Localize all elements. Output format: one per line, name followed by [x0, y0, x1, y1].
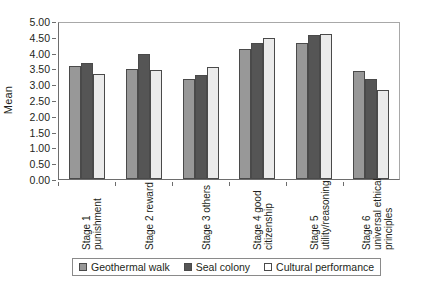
y-axis-tick-label: 0.50: [30, 158, 50, 170]
x-axis-label-line: Stage 2 reward: [143, 182, 154, 250]
x-axis-label-cell: Stage 2 reward: [115, 182, 172, 252]
bar: [126, 69, 138, 179]
x-axis-label-cell: Stage 5utility/reasoning: [286, 182, 343, 252]
bar: [69, 66, 81, 179]
bar: [195, 75, 207, 179]
bar: [296, 43, 308, 180]
x-axis-label-line: punishment: [92, 198, 103, 250]
y-axis-tick-label: 5.00: [30, 16, 50, 28]
y-axis-tick-label: 4.50: [30, 32, 50, 44]
y-axis-tick-mark: [52, 85, 56, 86]
bar: [320, 34, 332, 179]
bar: [263, 38, 275, 179]
bar-group: [342, 23, 399, 179]
y-axis-tick-label: 2.50: [30, 95, 50, 107]
x-axis-label-line: Stage 1: [81, 198, 92, 250]
x-axis-tick-mark: [229, 182, 230, 186]
x-axis-label-cell: Stage 1punishment: [58, 182, 115, 252]
x-axis-label-line: principles: [382, 178, 393, 250]
legend-item[interactable]: Cultural performance: [264, 261, 374, 273]
x-axis-label-cell: Stage 3 others: [172, 182, 229, 252]
y-axis-tick-mark: [52, 148, 56, 149]
bar: [81, 63, 93, 179]
x-axis-label-line: Stage 5: [309, 181, 320, 250]
x-axis-label: Stage 2 reward: [143, 182, 154, 250]
y-axis-ticks: 5.004.504.003.503.002.502.001.501.000.50…: [0, 22, 56, 180]
y-axis-tick-label: 3.50: [30, 63, 50, 75]
y-axis-tick-mark: [52, 117, 56, 118]
x-axis-tick-mark: [58, 182, 59, 186]
x-axis-tick-mark: [172, 182, 173, 186]
bar-group: [172, 23, 229, 179]
x-axis-label: Stage 5utility/reasoning: [309, 181, 331, 250]
bar: [239, 49, 251, 179]
legend-item[interactable]: Geothermal walk: [79, 261, 170, 273]
x-axis-label-line: Stage 6: [360, 178, 371, 250]
y-axis-tick-label: 4.00: [30, 48, 50, 60]
bar-chart: Mean 5.004.504.003.503.002.502.001.501.0…: [0, 0, 422, 285]
bar-group: [59, 23, 116, 179]
y-axis-tick-label: 1.00: [30, 142, 50, 154]
legend-label: Seal colony: [196, 261, 250, 273]
x-axis-label-cell: Stage 6universal ethicalprinciples: [343, 182, 400, 252]
y-axis-tick-mark: [52, 133, 56, 134]
bar: [183, 79, 195, 179]
x-axis-tick-mark: [286, 182, 287, 186]
legend-swatch: [264, 263, 272, 271]
legend-label: Geothermal walk: [91, 261, 170, 273]
bar: [308, 35, 320, 179]
legend-label: Cultural performance: [276, 261, 374, 273]
x-axis-label-line: universal ethical: [371, 178, 382, 250]
x-axis-label: Stage 4 goodcitizenship: [252, 191, 274, 251]
x-axis-label-line: utility/reasoning: [320, 181, 331, 250]
y-axis-tick-mark: [52, 164, 56, 165]
y-axis-tick-mark: [52, 38, 56, 39]
x-axis-tick-mark: [343, 182, 344, 186]
y-axis-tick-mark: [52, 101, 56, 102]
bar: [93, 74, 105, 179]
bar: [207, 67, 219, 179]
bar-group: [229, 23, 286, 179]
bar: [138, 54, 150, 179]
x-axis-label-line: Stage 3 others: [200, 185, 211, 250]
y-axis-tick-label: 1.50: [30, 127, 50, 139]
x-axis-label: Stage 1punishment: [81, 198, 103, 250]
y-axis-tick-mark: [52, 22, 56, 23]
x-axis-label-line: citizenship: [263, 191, 274, 251]
y-axis-tick-mark: [52, 69, 56, 70]
chart-legend: Geothermal walkSeal colonyCultural perfo…: [72, 258, 381, 276]
legend-item[interactable]: Seal colony: [184, 261, 250, 273]
legend-swatch: [79, 263, 87, 271]
x-axis-label-line: Stage 4 good: [252, 191, 263, 251]
bar-groups: [59, 23, 399, 179]
x-axis-label: Stage 3 others: [200, 185, 211, 250]
x-axis-tick-mark: [115, 182, 116, 186]
y-axis-tick-label: 2.00: [30, 111, 50, 123]
y-axis-tick-label: 3.00: [30, 79, 50, 91]
bar: [353, 71, 365, 179]
bar: [251, 43, 263, 180]
bar: [150, 70, 162, 179]
y-axis-tick-label: 0.00: [30, 174, 50, 186]
bar-group: [286, 23, 343, 179]
plot-area: [58, 22, 400, 180]
x-axis-label: Stage 6universal ethicalprinciples: [360, 178, 393, 250]
y-axis-tick-mark: [52, 54, 56, 55]
x-axis-label-cell: Stage 4 goodcitizenship: [229, 182, 286, 252]
x-axis-labels: Stage 1punishmentStage 2 rewardStage 3 o…: [58, 182, 400, 252]
bar: [377, 90, 389, 179]
y-axis-tick-mark: [52, 180, 56, 181]
bar: [365, 79, 377, 179]
bar-group: [116, 23, 173, 179]
legend-swatch: [184, 263, 192, 271]
